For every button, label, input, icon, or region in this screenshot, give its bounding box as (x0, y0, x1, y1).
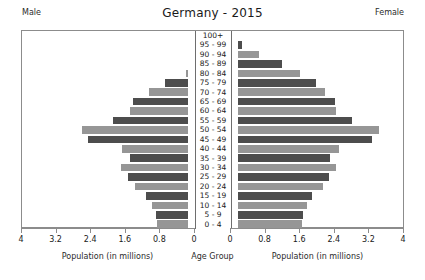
female-bar (231, 192, 312, 200)
female-bar (231, 126, 379, 134)
female-bar (231, 117, 352, 125)
right-axis-caption: Population (in millions) (231, 252, 404, 261)
axis-tick-label: 3.2 (44, 235, 68, 244)
axis-tick-label: 1.6 (287, 235, 311, 244)
axis-tick-label: 2.4 (322, 235, 346, 244)
axis-tick-label: 0 (218, 235, 242, 244)
female-bar (231, 98, 335, 106)
female-bar (231, 60, 282, 68)
female-bar (231, 173, 329, 181)
axis-tick (56, 228, 57, 233)
male-x-axis (21, 228, 195, 234)
female-bar (231, 211, 303, 219)
female-bar (231, 70, 300, 78)
female-bar (231, 88, 325, 96)
axis-tick-label: 4 (391, 235, 415, 244)
female-bar (231, 136, 372, 144)
population-pyramid-chart: Male Germany - 2015 Female 100+95 - 9990… (0, 0, 425, 280)
axis-tick (265, 228, 266, 233)
axis-tick-label: 1.6 (113, 235, 137, 244)
female-bar (231, 220, 302, 228)
male-tick-labels: 43.22.41.60.80 (21, 235, 195, 247)
female-bar (231, 183, 323, 191)
axis-tick (90, 228, 91, 233)
axis-line (21, 228, 195, 229)
female-tick-labels: 00.81.62.43.24 (230, 235, 404, 247)
axis-tick-label: 0.8 (253, 235, 277, 244)
axis-tick (159, 228, 160, 233)
female-bar (231, 79, 316, 87)
axis-tick (230, 228, 231, 233)
axis-tick-label: 0.8 (147, 235, 171, 244)
legend-female-label: Female (375, 8, 404, 17)
axis-line (230, 228, 404, 229)
female-bar (231, 202, 307, 210)
axis-tick-label: 2.4 (78, 235, 102, 244)
axis-tick (403, 228, 404, 233)
female-bar (231, 154, 330, 162)
axis-tick-label: 0 (182, 235, 206, 244)
axis-tick (299, 228, 300, 233)
chart-title: Germany - 2015 (0, 6, 425, 20)
axis-tick (334, 228, 335, 233)
plot-area: 100+95 - 9990 - 9485 - 8980 - 8475 - 797… (21, 30, 404, 228)
female-bar (231, 107, 336, 115)
axis-tick (368, 228, 369, 233)
female-bar (231, 145, 339, 153)
female-bar (231, 164, 336, 172)
axis-tick (125, 228, 126, 233)
axis-tick (194, 228, 195, 233)
male-zero-axis (195, 31, 196, 229)
female-x-axis (230, 228, 404, 234)
chart-header: Male Germany - 2015 Female (0, 6, 425, 24)
axis-tick-label: 3.2 (356, 235, 380, 244)
axis-tick (21, 228, 22, 233)
axis-tick-label: 4 (9, 235, 33, 244)
female-zero-axis (231, 31, 232, 229)
